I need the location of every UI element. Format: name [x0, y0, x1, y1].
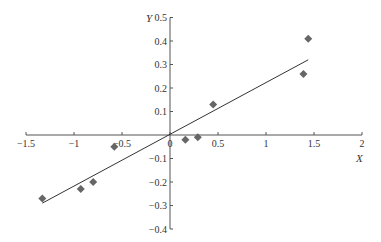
x-tick-label: 0.5: [212, 138, 225, 149]
x-tick-label: 2: [360, 138, 365, 149]
diamond-marker: [89, 178, 97, 186]
y-tick-label: 0.4: [155, 36, 168, 47]
x-tick-label: 1.5: [308, 138, 321, 149]
y-tick-label: −0.2: [149, 177, 167, 188]
scatter-chart: −1.5−1−0.500.511.52 0.50.40.30.20.1−0.1−…: [0, 0, 381, 242]
y-tick-label: −0.3: [149, 200, 167, 211]
y-tick-label: 0.3: [155, 59, 168, 70]
fitted-line: [42, 60, 308, 203]
diamond-marker: [304, 35, 312, 43]
axes: [26, 18, 362, 230]
x-tick-label: 0: [168, 138, 173, 149]
y-tick-label: 0.1: [155, 106, 168, 117]
diamond-marker: [181, 136, 189, 144]
data-points: [38, 35, 312, 203]
diamond-marker: [77, 185, 85, 193]
y-tick-label: −0.4: [149, 224, 167, 235]
y-tick-label: −0.1: [149, 153, 167, 164]
x-tick-label: −1: [69, 138, 80, 149]
diamond-marker: [299, 70, 307, 78]
fit-line: [42, 60, 308, 203]
x-axis-label: X: [355, 152, 364, 164]
x-tick-label: 1: [264, 138, 269, 149]
y-tick-label: 0.2: [155, 83, 168, 94]
y-tick-label: 0.5: [155, 12, 168, 23]
y-axis-label: Y: [146, 12, 154, 24]
y-axis-ticks: 0.50.40.30.20.1−0.1−0.2−0.3−0.4: [149, 12, 173, 235]
x-tick-label: −1.5: [17, 138, 35, 149]
diamond-marker: [209, 100, 217, 108]
